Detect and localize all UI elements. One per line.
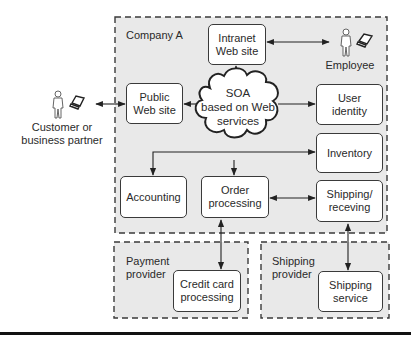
customer-person-icon [53, 91, 63, 118]
shipping-receiving-node: Shipping/ receving [316, 180, 383, 222]
public-web-site-node: Public Web site [126, 83, 183, 124]
order-processing-node: Order processing [201, 176, 269, 218]
company-a-label: Company A [126, 29, 183, 42]
customer-label: Customer or business partner [12, 121, 112, 147]
inventory-node: Inventory [316, 133, 383, 173]
user-identity-node: User identity [316, 84, 383, 125]
customer-laptop-icon [70, 96, 84, 109]
soa-hub-label: SOA based on Web services [196, 86, 280, 128]
employee-label: Employee [320, 59, 380, 72]
accounting-node: Accounting [120, 176, 187, 218]
employee-laptop-icon [357, 34, 372, 47]
shipping-provider-label: Shipping provider [272, 255, 315, 281]
intranet-web-site-node: Intranet Web site [208, 24, 266, 65]
employee-person-icon [341, 29, 351, 56]
payment-provider-label: Payment provider [126, 255, 169, 281]
shipping-service-node: Shipping service [318, 271, 383, 312]
bottom-divider [0, 332, 411, 335]
credit-card-processing-node: Credit card processing [173, 270, 241, 312]
